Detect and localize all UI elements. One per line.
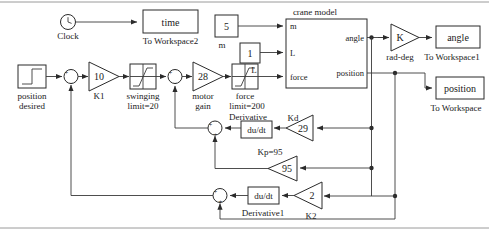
crane-input-force: force	[290, 72, 308, 82]
kp-gain-block[interactable]: 95	[268, 156, 297, 181]
block-diagram-canvas: Clock time To Workspace2 position desire…	[0, 0, 489, 235]
motor-gain-caption-1: motor	[192, 91, 214, 101]
rad-deg-value: K	[396, 32, 404, 43]
swinging-caption-1: swinging	[126, 91, 160, 101]
const-m-block[interactable]: 5	[215, 15, 238, 37]
motor-gain-caption-2: gain	[195, 101, 211, 111]
k2-gain-block[interactable]: 2	[294, 182, 322, 209]
position-workspace-caption: To Workspace	[430, 103, 481, 113]
position-desired-caption-2: desired	[19, 101, 45, 111]
sum3-sign-left: +	[209, 122, 213, 128]
const-l-block[interactable]: 1	[240, 43, 260, 63]
crane-input-m: m	[290, 21, 297, 31]
position-block-value: position	[444, 83, 476, 94]
time-block-value: time	[162, 17, 180, 28]
motor-gain-value: 28	[198, 71, 208, 82]
derivative-value: du/dt	[247, 125, 266, 135]
clock-icon	[68, 17, 72, 23]
sum-junction-3[interactable]: + +	[208, 121, 222, 138]
derivative1-caption: Derivative1	[242, 208, 284, 218]
kd-gain-value: 29	[298, 123, 308, 134]
derivative-block[interactable]: du/dt	[241, 121, 272, 138]
time-workspace-block[interactable]: time	[143, 10, 198, 33]
derivative1-block[interactable]: du/dt	[248, 187, 279, 204]
angle-block-value: angle	[447, 32, 469, 43]
k1-gain-value: 10	[94, 71, 104, 82]
crane-model-title: crane model	[293, 7, 338, 17]
force-sat-caption-1: force	[236, 91, 254, 101]
kp-caption: Kp=95	[257, 147, 283, 157]
k1-caption: K1	[94, 91, 105, 101]
clock-label: Clock	[57, 31, 79, 41]
clock-block[interactable]	[61, 15, 76, 30]
time-workspace-caption: To Workspace2	[143, 36, 199, 46]
crane-model-block[interactable]: m L force angle position	[286, 19, 367, 88]
crane-output-angle: angle	[346, 33, 365, 43]
swinging-saturation-block[interactable]	[130, 64, 156, 89]
crane-input-l: L	[290, 48, 295, 58]
k2-gain-value: 2	[310, 190, 315, 201]
kp-gain-value: 95	[282, 163, 292, 174]
sum4-sign-left: +	[214, 189, 218, 195]
motor-gain-block[interactable]: 28	[193, 62, 223, 91]
crane-output-position: position	[337, 68, 365, 78]
angle-workspace-block[interactable]: angle	[436, 26, 480, 48]
sum1-sign-left: +	[65, 70, 69, 76]
position-workspace-block[interactable]: position	[436, 77, 484, 99]
rad-deg-caption: rad-deg	[386, 52, 414, 62]
sum-junction-4[interactable]: + +	[213, 189, 227, 206]
angle-workspace-caption: To Workspace1	[424, 52, 480, 62]
const-l-value: 1	[248, 48, 253, 59]
kd-caption: Kd	[288, 113, 299, 123]
const-m-caption: m	[218, 40, 225, 50]
wire-position-to-scope	[425, 73, 432, 88]
sum2-sign-bottom: -	[175, 80, 177, 86]
force-sat-caption-2: limit=200	[229, 101, 265, 111]
sum-junction-2[interactable]: + -	[168, 70, 182, 87]
k2-caption: K2	[306, 211, 317, 221]
saturation-icon	[130, 64, 156, 89]
swinging-caption-2: limit=20	[127, 101, 159, 111]
derivative1-value: du/dt	[254, 191, 273, 201]
k1-gain-block[interactable]: 10	[89, 62, 119, 91]
sum2-sign-left: +	[169, 70, 173, 76]
sum-junction-1[interactable]: + -	[64, 70, 78, 87]
position-desired-block[interactable]	[18, 65, 46, 88]
step-icon	[22, 69, 42, 84]
rad-deg-gain-block[interactable]: K	[391, 24, 419, 51]
const-m-value: 5	[224, 21, 229, 32]
position-desired-caption-1: position	[17, 91, 47, 101]
const-l-caption: L	[251, 65, 257, 75]
